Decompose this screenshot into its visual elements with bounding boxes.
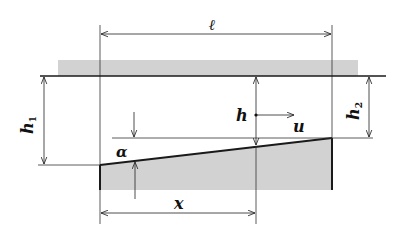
velocity-label: u: [293, 117, 305, 136]
h2-label: h2: [344, 102, 364, 120]
top-wall-shading: [58, 60, 358, 76]
distance-label: x: [173, 194, 184, 213]
depth-label: h: [236, 106, 248, 125]
channel-flow-diagram: ℓ h1 h2 h u α x: [0, 0, 406, 238]
length-label: ℓ: [209, 16, 215, 34]
h1-label: h1: [18, 116, 38, 134]
angle-label: α: [116, 143, 128, 161]
